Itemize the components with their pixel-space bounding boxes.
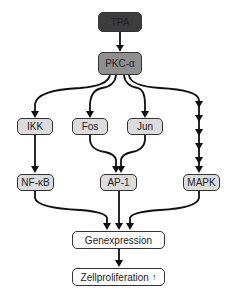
- up-arrow-icon: ↑: [152, 272, 157, 282]
- node-fos-label: Fos: [82, 121, 99, 132]
- node-genexpression-label: Genexpression: [85, 235, 152, 246]
- node-tpa: TPA: [98, 12, 142, 32]
- node-zellproliferation: Zellproliferation ↑: [72, 268, 165, 286]
- node-jun-label: Jun: [137, 121, 153, 132]
- node-jun: Jun: [127, 118, 163, 135]
- node-pkc-label: PKC-α: [105, 58, 135, 69]
- node-ikk-label: IKK: [27, 121, 43, 132]
- pathway-edges: [0, 0, 232, 297]
- node-mapk-label: MAPK: [187, 177, 215, 188]
- node-ikk: IKK: [17, 118, 53, 135]
- node-fos: Fos: [72, 118, 108, 135]
- node-tpa-label: TPA: [111, 17, 130, 28]
- node-mapk: MAPK: [183, 174, 220, 191]
- node-pkc: PKC-α: [98, 52, 142, 75]
- node-genexpression: Genexpression: [72, 231, 165, 249]
- node-ap1-label: AP-1: [107, 177, 129, 188]
- node-zellproliferation-label: Zellproliferation: [81, 272, 149, 283]
- node-nfkb: NF-κB: [17, 174, 54, 191]
- node-ap1: AP-1: [100, 174, 137, 191]
- node-nfkb-label: NF-κB: [21, 177, 49, 188]
